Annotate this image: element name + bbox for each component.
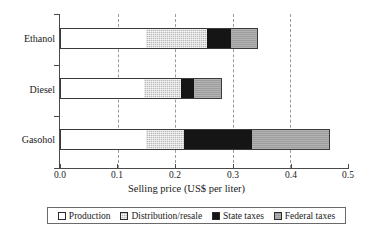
x-tick-mark-4 [291,164,292,169]
stacked-bar-chart: Ethanol Diesel Gasohol 0.0 0.1 0.2 0.3 0… [0,0,373,233]
x-tick-mark-3 [233,164,234,169]
bar-gasohol-federal-taxes [252,129,330,150]
legend-label-distribution: Distribution/resale [131,211,202,221]
y-label-gasohol: Gasohol [0,134,55,145]
y-label-ethanol: Ethanol [0,33,55,44]
bar-ethanol-distribution [146,28,206,49]
x-axis-spine [59,168,349,169]
x-tick-label-3: 0.3 [213,170,253,180]
y-axis-tick-top [54,14,60,15]
legend-label-production: Production [69,211,111,221]
legend-item-distribution: Distribution/resale [120,211,202,221]
y-label-diesel: Diesel [0,84,55,95]
bar-diesel-production [60,78,144,99]
x-tick-mark-5 [348,164,349,169]
x-tick-label-2: 0.2 [155,170,195,180]
bar-diesel-state-taxes [181,78,194,99]
legend-item-state-taxes: State taxes [212,211,264,221]
bar-ethanol-state-taxes [207,28,231,49]
plot-area [60,14,348,168]
legend-item-production: Production [58,211,111,221]
x-tick-label-0: 0.0 [40,170,80,180]
y-axis-tick-1 [54,65,60,66]
legend-swatch-state-taxes-icon [212,212,220,220]
y-axis-tick-2 [54,116,60,117]
legend-swatch-production-icon [58,212,66,220]
legend-label-state-taxes: State taxes [223,211,264,221]
x-tick-label-4: 0.4 [271,170,311,180]
bar-gasohol-distribution [146,129,183,150]
legend-swatch-federal-taxes-icon [274,212,282,220]
chart-legend: Production Distribution/resale State tax… [47,207,346,224]
x-tick-mark-0 [60,164,61,169]
x-tick-label-1: 0.1 [97,170,137,180]
bar-gasohol-state-taxes [184,129,252,150]
bar-ethanol-production [60,28,146,49]
x-tick-label-5: 0.5 [328,170,368,180]
x-tick-mark-2 [175,164,176,169]
legend-item-federal-taxes: Federal taxes [274,211,335,221]
bar-diesel-federal-taxes [194,78,222,99]
y-axis-spine [59,14,60,169]
x-axis-title: Selling price (US$ per liter) [0,183,373,194]
legend-swatch-distribution-icon [120,212,128,220]
bar-diesel-distribution [144,78,181,99]
bar-gasohol-production [60,129,146,150]
legend-label-federal-taxes: Federal taxes [285,211,335,221]
x-tick-mark-1 [117,164,118,169]
bar-ethanol-federal-taxes [231,28,258,49]
